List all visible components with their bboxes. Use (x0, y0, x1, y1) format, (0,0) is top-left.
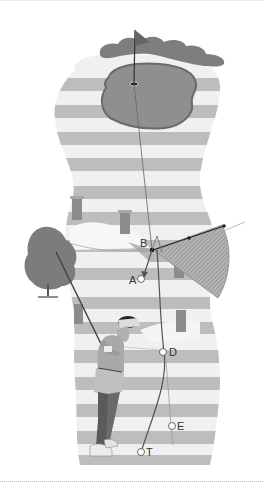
putting-green (102, 64, 196, 129)
golf-hole-diagram: B A D E T (0, 0, 263, 495)
label-b: B (140, 237, 147, 249)
label-d: D (169, 346, 177, 358)
point-d (160, 349, 167, 356)
point-t (138, 449, 145, 456)
label-t: T (146, 446, 153, 458)
label-e: E (177, 420, 184, 432)
bottom-dotted-rule (0, 481, 263, 483)
label-a: A (129, 274, 137, 286)
point-a (138, 276, 145, 283)
point-e (169, 423, 176, 430)
